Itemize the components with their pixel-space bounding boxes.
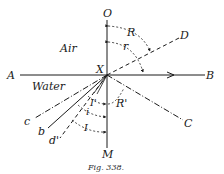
label-angle-I: I bbox=[83, 122, 89, 133]
label-O: O bbox=[103, 7, 112, 20]
figure-caption: Fig. 338. bbox=[87, 163, 124, 172]
label-d-prime: d' bbox=[49, 134, 59, 147]
label-C: C bbox=[184, 117, 193, 130]
arc-I bbox=[72, 120, 106, 132]
ray-fan-1 bbox=[94, 75, 107, 93]
label-water: Water bbox=[32, 80, 66, 93]
label-B: B bbox=[205, 69, 214, 82]
label-angle-R-prime: R' bbox=[115, 97, 127, 110]
label-A: A bbox=[6, 69, 15, 82]
label-c: c bbox=[24, 115, 30, 128]
label-D: D bbox=[179, 29, 189, 42]
refraction-diagram: O M A B X D C c b d' R r R' I' i I Air W… bbox=[0, 0, 224, 174]
label-angle-I-prime: I' bbox=[89, 97, 97, 108]
label-air: Air bbox=[59, 42, 77, 55]
label-X: X bbox=[95, 63, 105, 76]
label-angle-r: r bbox=[123, 40, 129, 53]
label-angle-R: R bbox=[126, 26, 135, 39]
label-angle-i: i bbox=[86, 106, 89, 117]
label-b: b bbox=[38, 125, 45, 138]
label-M: M bbox=[101, 148, 114, 161]
